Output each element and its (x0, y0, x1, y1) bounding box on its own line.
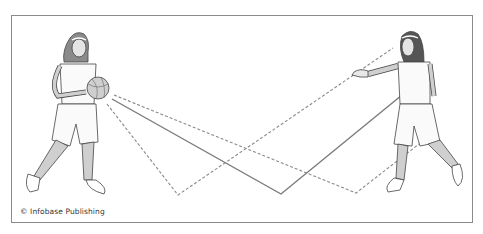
passer-figure (26, 33, 109, 194)
bounce-pass-diagram (0, 0, 483, 234)
dashed-low-bounce-pass-path (107, 48, 393, 195)
receiver-figure (352, 31, 463, 192)
solid-bounce-pass-path (112, 95, 402, 194)
dashed-high-bounce-pass-path (114, 95, 419, 193)
copyright-credit: © Infobase Publishing (20, 207, 105, 216)
basketball (87, 77, 109, 99)
